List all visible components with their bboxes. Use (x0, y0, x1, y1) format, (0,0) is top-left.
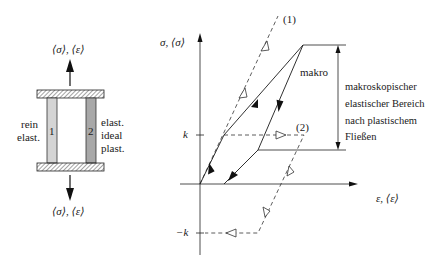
region-text-line4: Fließen (345, 130, 377, 143)
top-load-label: ⟨σ⟩, ⟨ε⟩ (52, 43, 84, 56)
diagram-canvas (0, 0, 445, 265)
region-text-line2: elastischer Bereich (345, 97, 425, 110)
bar-1-number: 1 (49, 125, 55, 138)
curve-1-dashed (200, 16, 278, 184)
top-load-arrow-icon (66, 59, 74, 72)
curve-1-label: (1) (283, 13, 296, 26)
top-plate (37, 90, 104, 98)
dimension-arrow-up-icon (336, 45, 341, 53)
macro-label: makro (300, 66, 328, 79)
curve-1-arrow-icon (261, 41, 269, 51)
curve-2-arrow-icon (263, 207, 270, 217)
y-axis-arrow-icon (198, 33, 203, 42)
bottom-load-label: ⟨σ⟩, ⟨ε⟩ (52, 205, 84, 218)
curve-2-arrow-icon (287, 166, 294, 176)
curve-1-arrow-icon (239, 88, 247, 98)
curve-2-arrow-icon (276, 131, 286, 139)
bar-1-label-line1: rein (21, 118, 38, 131)
y-axis-label: σ, ⟨σ⟩ (160, 36, 185, 49)
stress-strain-graph (180, 16, 358, 255)
macro-arrow-icon (228, 171, 238, 181)
bottom-load-arrow-icon (66, 188, 74, 201)
x-axis-label: ε, ⟨ε⟩ (376, 192, 399, 205)
tick-k-label: k (183, 128, 188, 141)
bottom-plate (37, 163, 104, 171)
region-text-line3: nach plastischem (345, 114, 417, 127)
curve-2-label: (2) (296, 121, 309, 134)
dimension-arrow-down-icon (336, 142, 341, 150)
region-text-line1: makroskopischer (345, 80, 417, 93)
x-axis-arrow-icon (349, 182, 358, 187)
bar-model (37, 59, 104, 201)
tick-minus-k-label: −k (176, 226, 188, 239)
bar-2-number: 2 (88, 125, 94, 138)
bar-2-label-line2: ideal (101, 129, 122, 142)
bar-2-label-line3: plast. (101, 142, 125, 155)
macro-curve (200, 45, 303, 184)
curve-2-arrow-icon (226, 229, 236, 237)
bar-2-label-line1: elast. (101, 116, 124, 129)
bar-1-label-line2: elast. (17, 131, 40, 144)
